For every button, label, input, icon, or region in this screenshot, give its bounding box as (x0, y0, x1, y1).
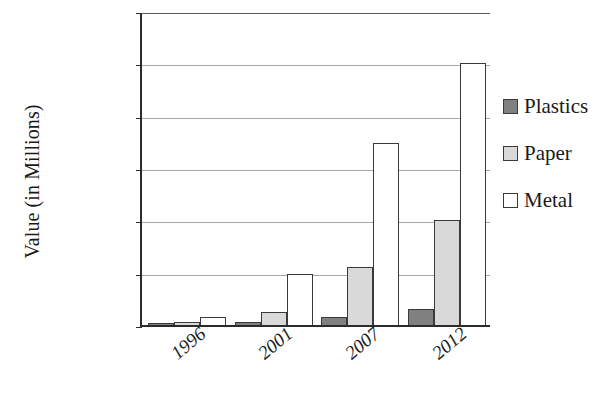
bar-paper-2012[interactable] (434, 220, 460, 325)
x-axis-tick-label-2001: 2001 (253, 323, 296, 364)
bar-group-2007 (317, 13, 404, 325)
bar-metal-2012[interactable] (460, 63, 486, 325)
bar-plastics-1996[interactable] (148, 323, 174, 326)
legend-item-plastics[interactable]: Plastics (503, 96, 588, 117)
bar-metal-1996[interactable] (200, 317, 226, 325)
y-axis-tick (136, 13, 142, 14)
y-axis-tick (136, 222, 142, 223)
bar-chart: Value (in Millions) $0$100$200$300$400$5… (0, 0, 612, 396)
bar-metal-2007[interactable] (373, 143, 399, 325)
legend-label-plastics: Plastics (524, 96, 588, 117)
x-axis-label-cell: 2007 (316, 329, 403, 389)
bar-group-1996 (144, 13, 231, 325)
x-axis-tick-label-2007: 2007 (340, 323, 383, 364)
metal-swatch (503, 193, 518, 208)
y-axis-tick (136, 170, 142, 171)
x-axis-label-cell: 2012 (403, 329, 490, 389)
legend-item-metal[interactable]: Metal (503, 190, 588, 211)
paper-swatch (503, 146, 518, 161)
bar-plastics-2007[interactable] (321, 317, 347, 325)
bar-plastics-2012[interactable] (408, 309, 434, 325)
x-axis-label-cell: 2001 (229, 329, 316, 389)
legend-label-metal: Metal (524, 190, 573, 211)
plot-area (140, 13, 490, 327)
plastics-swatch (503, 99, 518, 114)
legend-item-paper[interactable]: Paper (503, 143, 588, 164)
bar-group-2001 (231, 13, 318, 325)
legend: PlasticsPaperMetal (503, 96, 588, 211)
bar-metal-2001[interactable] (287, 274, 313, 325)
bar-paper-2007[interactable] (347, 267, 373, 325)
y-axis-tick (136, 65, 142, 66)
y-axis-tick (136, 327, 142, 328)
bar-plastics-2001[interactable] (235, 322, 261, 325)
x-axis-tick-label-1996: 1996 (166, 323, 209, 364)
y-axis-tick (136, 118, 142, 119)
x-axis-label-cell: 1996 (142, 329, 229, 389)
bar-group-2012 (404, 13, 491, 325)
y-axis-title: Value (in Millions) (21, 22, 44, 342)
x-axis-tick-labels: 1996200120072012 (142, 329, 490, 389)
y-axis-tick (136, 275, 142, 276)
x-axis-tick-label-2012: 2012 (427, 323, 470, 364)
bar-groups (144, 13, 490, 325)
legend-label-paper: Paper (524, 143, 572, 164)
